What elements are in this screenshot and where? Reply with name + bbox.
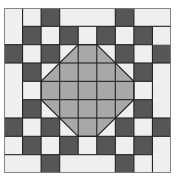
quilt-cell (23, 118, 42, 136)
quilt-cell (41, 155, 60, 173)
quilt-cell (23, 136, 42, 154)
quilt-cell (152, 155, 171, 173)
quilt-cell (115, 136, 134, 154)
quilt-cell (152, 136, 171, 154)
quilt-cell (4, 155, 23, 173)
quilt-cell (152, 8, 171, 26)
quilt-cell (115, 8, 134, 26)
quilt-cell (78, 155, 97, 173)
quilt-cell (23, 45, 42, 63)
quilt-cell (152, 63, 171, 81)
quilt-cell (134, 136, 153, 154)
quilt-cell (134, 63, 153, 81)
quilt-cell (134, 45, 153, 63)
quilt-cell (60, 136, 79, 154)
quilt-cell (152, 26, 171, 44)
quilt-cell (60, 8, 79, 26)
quilt-cell (23, 155, 42, 173)
quilt-cell (97, 155, 116, 173)
quilt-cell (115, 118, 134, 136)
quilt-cell (41, 8, 60, 26)
quilt-cell (78, 26, 97, 44)
quilt-cell (4, 8, 23, 26)
quilt-cell (134, 81, 153, 99)
quilt-cell (134, 155, 153, 173)
quilt-cell (78, 136, 97, 154)
quilt-cell (4, 81, 23, 99)
quilt-cell (41, 118, 60, 136)
quilt-cell (134, 26, 153, 44)
quilt-cell (41, 26, 60, 44)
quilt-cell (152, 81, 171, 99)
quilt-cell (4, 63, 23, 81)
quilt-cell (115, 26, 134, 44)
quilt-cell (97, 136, 116, 154)
quilt-cell (97, 26, 116, 44)
quilt-cell (115, 45, 134, 63)
quilt-cell (4, 100, 23, 118)
quilt-cell (78, 8, 97, 26)
quilt-cell (23, 8, 42, 26)
quilt-cell (152, 118, 171, 136)
quilt-cell (115, 155, 134, 173)
quilt-cell (23, 100, 42, 118)
quilt-cell (4, 26, 23, 44)
quilt-block (4, 8, 171, 173)
quilt-cell (134, 118, 153, 136)
quilt-cell (152, 45, 171, 63)
quilt-cell (152, 100, 171, 118)
quilt-cell (23, 26, 42, 44)
quilt-cell (23, 63, 42, 81)
quilt-cell (4, 136, 23, 154)
quilt-cell (60, 26, 79, 44)
quilt-cell (4, 45, 23, 63)
quilt-cell (134, 8, 153, 26)
quilt-cell (4, 118, 23, 136)
quilt-cell (134, 100, 153, 118)
quilt-cell (41, 45, 60, 63)
quilt-cell (23, 81, 42, 99)
quilt-cell (41, 136, 60, 154)
quilt-cell (60, 155, 79, 173)
quilt-cell (97, 8, 116, 26)
